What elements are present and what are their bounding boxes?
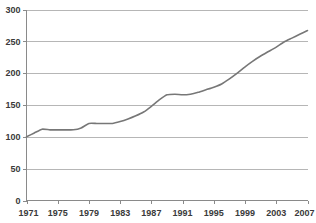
y-tick-label: 200 <box>5 68 20 78</box>
y-tick-label: 250 <box>5 37 20 47</box>
y-tick-label: 300 <box>5 5 20 15</box>
x-tick-label: 1995 <box>204 208 224 218</box>
y-axis-tick-labels: 050100150200250300 <box>5 5 20 206</box>
x-axis <box>27 201 309 205</box>
x-tick-label: 1983 <box>110 208 130 218</box>
x-tick-label: 1979 <box>79 208 99 218</box>
x-tick-label: 2007 <box>294 208 314 218</box>
y-axis <box>23 10 27 202</box>
x-tick-label: 1975 <box>48 208 68 218</box>
x-tick-label: 1971 <box>18 208 38 218</box>
y-tick-label: 100 <box>5 132 20 142</box>
x-tick-label: 1987 <box>141 208 161 218</box>
x-tick-label: 1999 <box>235 208 255 218</box>
x-axis-tick-labels: 1971197519791983198719911995199920032007 <box>18 208 314 218</box>
x-tick-label: 2003 <box>266 208 286 218</box>
chart-canvas: 050100150200250300 197119751979198319871… <box>0 0 316 223</box>
y-tick-label: 0 <box>15 196 20 206</box>
series-line-0 <box>27 31 308 137</box>
line-chart: 050100150200250300 197119751979198319871… <box>0 0 316 223</box>
data-series <box>27 31 308 137</box>
gridlines <box>27 11 308 170</box>
x-tick-label: 1991 <box>173 208 193 218</box>
y-tick-label: 50 <box>10 164 20 174</box>
y-tick-label: 150 <box>5 100 20 110</box>
